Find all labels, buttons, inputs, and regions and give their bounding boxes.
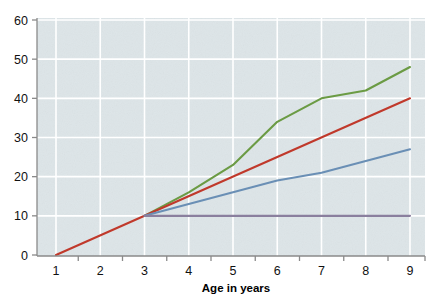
x-axis-title: Age in years <box>202 282 270 294</box>
y-tick-label: 50 <box>14 53 28 67</box>
x-tick-label: 7 <box>318 264 325 278</box>
x-tick-label: 2 <box>97 264 104 278</box>
x-tick-label: 9 <box>407 264 414 278</box>
x-tick-label: 1 <box>53 264 60 278</box>
x-tick-label: 4 <box>185 264 192 278</box>
line-chart: 0102030405060123456789Age in years <box>0 0 446 303</box>
y-tick-label: 60 <box>14 14 28 28</box>
y-tick-label: 20 <box>14 170 28 184</box>
x-tick-label: 8 <box>362 264 369 278</box>
chart-canvas: 0102030405060123456789Age in years <box>0 0 446 303</box>
y-tick-label: 40 <box>14 92 28 106</box>
y-tick-label: 10 <box>14 209 28 223</box>
x-tick-label: 3 <box>141 264 148 278</box>
y-tick-label: 0 <box>21 249 28 263</box>
x-tick-label: 6 <box>274 264 281 278</box>
y-tick-label: 30 <box>14 131 28 145</box>
x-tick-label: 5 <box>230 264 237 278</box>
